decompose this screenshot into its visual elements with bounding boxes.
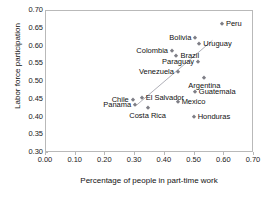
data-point-label: Peru <box>226 20 242 28</box>
y-axis-title: Labor force participation <box>14 0 22 136</box>
data-point-marker <box>133 103 138 108</box>
data-point-label: Paraguay <box>162 58 194 66</box>
data-point-marker <box>192 90 197 95</box>
x-tick-label: 0.20 <box>97 156 112 164</box>
data-point-label: Guatemala <box>199 89 236 97</box>
data-point-marker <box>175 99 180 104</box>
data-point-marker <box>176 70 181 75</box>
data-point-marker <box>197 42 202 47</box>
x-tick-label: 0.70 <box>246 156 261 164</box>
data-series: PeruBoliviaUruguayColombiaBrazilParaguay… <box>46 11 252 151</box>
data-point-label: Panama <box>103 102 131 110</box>
x-axis-tick-labels: 0.000.100.200.300.400.500.600.70 <box>45 153 253 167</box>
data-point-marker <box>191 115 196 120</box>
data-point-marker <box>145 106 150 111</box>
data-point-label: Bolivia <box>169 34 191 42</box>
data-point-marker <box>170 49 175 54</box>
x-tick-label: 0.00 <box>38 156 53 164</box>
x-tick-label: 0.60 <box>216 156 231 164</box>
data-point-label: Colombia <box>136 47 168 55</box>
data-point-label: Mexico <box>182 98 206 106</box>
x-tick-label: 0.30 <box>127 156 142 164</box>
x-axis-title: Percentage of people in part-time work <box>45 177 253 185</box>
x-tick-label: 0.50 <box>186 156 201 164</box>
scatter-chart-figure: 0.700.650.600.550.500.450.400.350.30 Per… <box>0 0 264 200</box>
x-tick-label: 0.40 <box>157 156 172 164</box>
data-point-marker <box>202 75 207 80</box>
data-point-marker <box>220 22 225 27</box>
data-point-marker <box>196 60 201 65</box>
data-point-label: Uruguay <box>203 41 231 49</box>
data-point-label: Costa Rica <box>129 112 166 120</box>
x-tick-label: 0.10 <box>67 156 82 164</box>
data-point-label: Honduras <box>198 113 231 121</box>
data-point-marker <box>139 95 144 100</box>
data-point-marker <box>193 35 198 40</box>
data-point-label: Venezuela <box>139 69 174 77</box>
plot-area: PeruBoliviaUruguayColombiaBrazilParaguay… <box>45 10 253 152</box>
